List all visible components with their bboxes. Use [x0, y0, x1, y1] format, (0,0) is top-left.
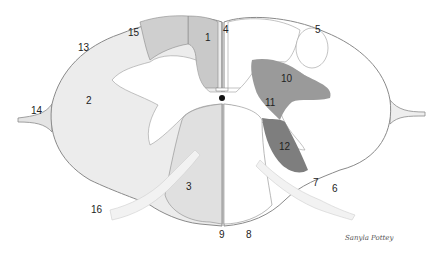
label-3: 3 [186, 181, 192, 192]
septum-base [216, 88, 228, 91]
label-13: 13 [78, 42, 90, 53]
right-tract-5 [296, 28, 328, 68]
label-12: 12 [279, 141, 291, 152]
label-10: 10 [281, 73, 293, 84]
label-2: 2 [86, 95, 92, 106]
label-15: 15 [128, 27, 140, 38]
label-4: 4 [223, 24, 229, 35]
central-canal [219, 95, 225, 101]
label-7: 7 [313, 177, 319, 188]
label-9: 9 [219, 229, 225, 240]
label-16: 16 [91, 204, 103, 215]
label-6: 6 [332, 183, 338, 194]
right-dentate-ligament [390, 100, 425, 124]
label-1: 1 [205, 32, 211, 43]
label-14: 14 [31, 105, 43, 116]
label-11: 11 [265, 97, 276, 108]
label-8: 8 [246, 229, 252, 240]
label-5: 5 [315, 24, 321, 35]
artist-signature: Sanyla Pottey [345, 234, 394, 242]
spinal-cord-diagram: 1 2 3 4 5 6 7 8 9 10 11 12 13 14 15 16 S… [0, 0, 441, 256]
